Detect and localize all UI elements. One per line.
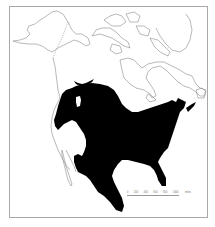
scale-unit: miles <box>185 191 191 194</box>
scale-label-200: 200 <box>134 191 138 194</box>
great-lakes-outline <box>146 94 156 102</box>
scale-label-600: 600 <box>153 191 157 194</box>
arctic-islands-4 <box>136 26 150 36</box>
arctic-islands-2 <box>104 14 126 26</box>
arctic-islands-3 <box>126 12 140 22</box>
scale-label-400: 400 <box>144 191 148 194</box>
scale-label-1000: 1000 <box>173 191 179 194</box>
baja-california-outline <box>62 150 72 186</box>
arctic-islands-5 <box>150 38 170 56</box>
scale-bar-line <box>127 195 179 196</box>
greenland-outline <box>156 14 192 52</box>
scale-bar-legend: 0 200 400 600 800 1000 miles <box>127 191 191 201</box>
range-northern-stalk <box>81 84 85 88</box>
arctic-islands-1 <box>92 28 130 48</box>
scale-labels: 0 200 400 600 800 1000 miles <box>127 191 191 194</box>
hudson-bay-outline <box>120 58 206 98</box>
range-nova-scotia <box>186 102 196 112</box>
scale-label-800: 800 <box>163 191 167 194</box>
alaska-canada-border <box>53 22 68 58</box>
alaska-outline <box>13 11 90 52</box>
scale-label-0: 0 <box>127 191 128 194</box>
arctic-islands-6 <box>110 44 122 54</box>
